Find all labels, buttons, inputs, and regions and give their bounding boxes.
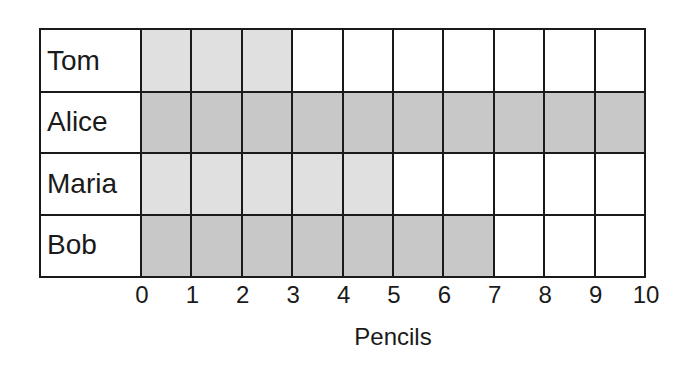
empty-cell [495, 30, 545, 92]
row-divider [41, 152, 644, 154]
filled-cell [142, 92, 192, 154]
empty-cell [344, 30, 394, 92]
filled-cell [293, 153, 343, 215]
x-tick-label: 9 [589, 281, 602, 309]
empty-cell [596, 30, 644, 92]
empty-cell [596, 153, 644, 215]
empty-cell [444, 30, 494, 92]
empty-cell [545, 215, 595, 277]
chart-grid: TomAliceMariaBob [39, 28, 646, 278]
empty-cell [394, 153, 444, 215]
x-tick-label: 7 [488, 281, 501, 309]
empty-cell [545, 30, 595, 92]
x-tick-label: 1 [186, 281, 199, 309]
filled-cell [142, 30, 192, 92]
filled-cell [495, 92, 545, 154]
x-tick-label: 8 [539, 281, 552, 309]
row-divider [41, 91, 644, 93]
x-tick-label: 5 [387, 281, 400, 309]
filled-cell [243, 92, 293, 154]
x-tick-label: 3 [287, 281, 300, 309]
filled-cell [243, 215, 293, 277]
empty-cell [293, 30, 343, 92]
filled-cell [344, 215, 394, 277]
filled-cell [344, 153, 394, 215]
x-axis-label: Pencils [354, 323, 431, 351]
filled-cell [344, 92, 394, 154]
filled-cell [192, 153, 242, 215]
filled-cell [243, 30, 293, 92]
filled-cell [142, 215, 192, 277]
empty-cell [596, 215, 644, 277]
filled-cell [596, 92, 644, 154]
filled-cell [192, 215, 242, 277]
pencils-bar-chart: TomAliceMariaBob 012345678910 Pencils [0, 0, 688, 371]
filled-cell [444, 92, 494, 154]
filled-cell [394, 92, 444, 154]
category-label: Bob [41, 215, 142, 277]
bar-row-bob: Bob [41, 215, 644, 277]
empty-cell [495, 153, 545, 215]
bar-row-tom: Tom [41, 30, 644, 92]
empty-cell [545, 153, 595, 215]
filled-cell [243, 153, 293, 215]
filled-cell [192, 30, 242, 92]
x-tick-label: 6 [438, 281, 451, 309]
x-tick-label: 4 [337, 281, 350, 309]
filled-cell [444, 215, 494, 277]
filled-cell [394, 215, 444, 277]
x-tick-label: 0 [135, 281, 148, 309]
category-label: Tom [41, 30, 142, 92]
x-tick-label: 2 [236, 281, 249, 309]
empty-cell [495, 215, 545, 277]
category-label: Alice [41, 92, 142, 154]
x-tick-label: 10 [633, 281, 660, 309]
category-label: Maria [41, 153, 142, 215]
filled-cell [293, 215, 343, 277]
empty-cell [394, 30, 444, 92]
bar-row-maria: Maria [41, 153, 644, 215]
filled-cell [545, 92, 595, 154]
filled-cell [192, 92, 242, 154]
bar-row-alice: Alice [41, 92, 644, 154]
empty-cell [444, 153, 494, 215]
filled-cell [293, 92, 343, 154]
row-divider [41, 214, 644, 216]
filled-cell [142, 153, 192, 215]
